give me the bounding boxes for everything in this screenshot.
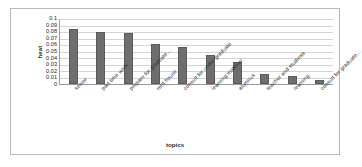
chart-container: heat 0.10.090.080.070.060.050.040.030.02… bbox=[10, 8, 340, 155]
x-axis-tick-labels: seniorpart time workprepare for graduate… bbox=[59, 86, 333, 141]
x-tick-slot: consult for graduate... bbox=[306, 86, 333, 141]
x-tick-slot: senior bbox=[59, 86, 86, 141]
bar-slot bbox=[251, 19, 278, 84]
x-tick-slot: prepare for graduate... bbox=[114, 86, 141, 141]
bar-slot bbox=[306, 19, 333, 84]
bar[interactable] bbox=[178, 47, 187, 84]
x-tick-slot: teacher and students bbox=[251, 86, 278, 141]
x-tick-slot: learning bbox=[278, 86, 305, 141]
bar[interactable] bbox=[96, 32, 105, 84]
bar[interactable] bbox=[69, 29, 78, 84]
bar-slot bbox=[87, 19, 114, 84]
y-axis-tick-labels: 0.10.090.080.070.060.050.040.030.020.010 bbox=[31, 19, 57, 85]
x-tick-slot: consult for under graduate bbox=[169, 86, 196, 141]
y-axis-tick: 0 bbox=[31, 82, 57, 88]
x-tick-slot: rent house bbox=[141, 86, 168, 141]
bar[interactable] bbox=[124, 33, 133, 84]
bar-slot bbox=[60, 19, 87, 84]
x-tick-slot: part time work bbox=[86, 86, 113, 141]
x-tick-slot: alumnus bbox=[223, 86, 250, 141]
x-tick-slot: learning material bbox=[196, 86, 223, 141]
x-axis-title: topics bbox=[11, 141, 339, 148]
